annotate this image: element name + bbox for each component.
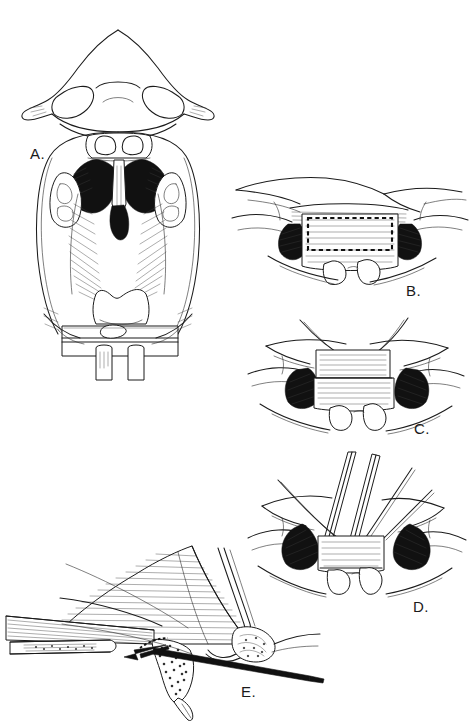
mouth-gag-retractor [62, 325, 178, 380]
retracted-lip-b [236, 178, 466, 213]
incisor-teeth [86, 133, 152, 161]
panel-b [228, 174, 472, 294]
panel-e [6, 544, 336, 728]
surgical-figure: A. [0, 0, 472, 728]
panel-label-c: C. [414, 421, 430, 436]
tongue [93, 290, 149, 325]
flap-donor-site-b [302, 214, 398, 271]
panel-c [238, 312, 472, 440]
nasal-floor-mucosa [206, 548, 320, 662]
nose-shape [22, 30, 214, 120]
elevator-blade-e [10, 640, 116, 654]
panel-label-a: A. [30, 146, 45, 161]
panel-label-e: E. [241, 684, 256, 699]
panel-label-b: B. [406, 283, 421, 298]
panel-a [0, 8, 236, 368]
elevated-flap-c [314, 350, 394, 411]
panel-label-d: D. [413, 599, 429, 614]
